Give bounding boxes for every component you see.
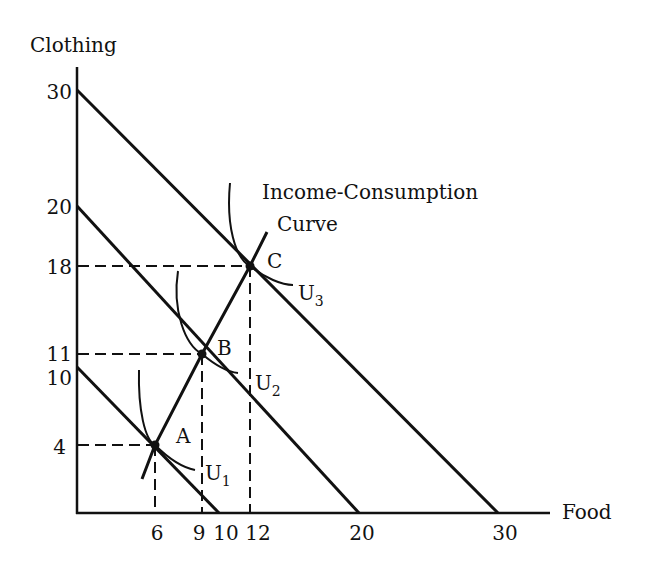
x-tick-12: 12 [245,521,270,545]
x-tick-6: 6 [151,521,164,545]
x-tick-9: 9 [193,521,206,545]
y-tick-10: 10 [47,366,72,390]
icc-annotation-line1: Income-Consumption [262,180,478,204]
x-tick-10: 10 [213,521,238,545]
budget-line-3 [77,90,498,513]
u1-label: U1 [205,461,231,489]
u2-label: U2 [255,371,281,399]
y-tick-18: 18 [47,255,72,279]
point-b-label: B [217,336,232,360]
point-b-marker [198,350,207,359]
income-consumption-diagram: Clothing Food 30 20 18 11 10 4 6 9 10 12… [0,0,651,574]
x-axis-label: Food [562,500,612,524]
point-a-marker [151,441,160,450]
y-axis-label: Clothing [30,33,117,57]
u3-label: U3 [298,281,324,309]
y-tick-11: 11 [47,342,72,366]
point-a-label: A [175,424,191,448]
y-tick-20: 20 [47,195,72,219]
point-c-label: C [267,249,282,273]
icc-annotation-line2: Curve [277,212,338,236]
x-tick-30: 30 [492,521,517,545]
point-c-marker [246,262,255,271]
x-tick-20: 20 [349,521,374,545]
budget-line-1 [77,367,219,513]
y-tick-4: 4 [53,435,66,459]
y-tick-30: 30 [47,80,72,104]
